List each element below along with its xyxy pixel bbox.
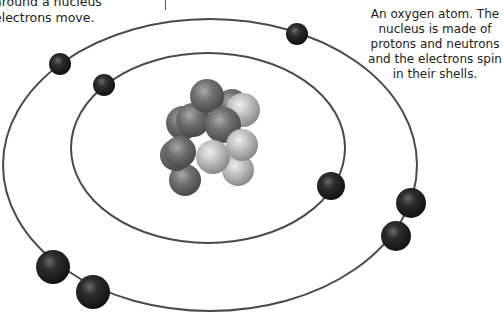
electron: [36, 250, 70, 284]
proton: [164, 136, 196, 168]
electron: [286, 23, 308, 45]
nucleus: [160, 79, 260, 196]
electron: [396, 188, 426, 218]
oxygen-atom-diagram: [0, 0, 503, 312]
neutron: [196, 140, 230, 174]
electron: [76, 275, 110, 309]
electron: [317, 172, 345, 200]
neutron: [226, 129, 258, 161]
electron: [93, 74, 115, 96]
electron: [381, 221, 411, 251]
electron: [49, 53, 71, 75]
